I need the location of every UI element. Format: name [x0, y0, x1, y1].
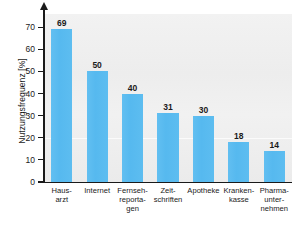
y-axis-tick-label: 70: [0, 22, 35, 32]
y-axis-tick-mark: [38, 115, 43, 116]
bar-item[interactable]: 69: [51, 17, 72, 182]
bar-rect[interactable]: [193, 116, 214, 182]
y-axis-tick-label: 20: [0, 133, 35, 143]
y-axis-tick-label: 40: [0, 89, 35, 99]
y-axis-tick-mark: [38, 27, 43, 28]
bar-value-label: 18: [234, 132, 243, 141]
x-axis-category-label: Pharma- unter- nehmen: [257, 186, 292, 214]
bar-value-label: 30: [199, 106, 208, 115]
y-axis-line: [43, 8, 45, 183]
x-axis-category-label: Zeit- schriften: [150, 186, 185, 204]
y-axis-tick-mark: [38, 93, 43, 94]
y-axis-tick-label: 0: [0, 177, 35, 187]
y-axis-tick-label: 10: [0, 155, 35, 165]
x-axis-category-label: Kranken- kasse: [221, 186, 256, 204]
y-axis-tick-label: 30: [0, 111, 35, 121]
y-axis-tick-mark: [38, 71, 43, 72]
y-axis-tick-label: 60: [0, 44, 35, 54]
bar-rect[interactable]: [51, 29, 72, 182]
x-axis-category-label: Internet: [79, 186, 114, 195]
bar-item[interactable]: 31: [157, 101, 178, 182]
y-axis-tick-mark: [38, 137, 43, 138]
bar-item[interactable]: 40: [122, 82, 143, 182]
x-axis-category-label: Apotheke: [186, 186, 221, 195]
bar-rect[interactable]: [122, 94, 143, 182]
bar-item[interactable]: 18: [228, 130, 249, 182]
bar-value-label: 14: [270, 141, 279, 150]
bar-rect[interactable]: [87, 71, 108, 182]
x-axis-category-label: Haus- arzt: [44, 186, 79, 204]
x-axis-category-label: Fernseh- reporta- gen: [115, 186, 150, 214]
bar-value-label: 40: [128, 84, 137, 93]
y-axis-tick-mark: [38, 49, 43, 50]
bar-rect[interactable]: [264, 151, 285, 182]
bar-value-label: 50: [92, 61, 101, 70]
x-axis-line: [43, 182, 292, 183]
y-axis-tick-label: 50: [0, 66, 35, 76]
bar-rect[interactable]: [157, 113, 178, 182]
y-axis-arrow-icon: [40, 2, 48, 10]
y-axis-tick-mark: [38, 181, 43, 182]
bar-rect[interactable]: [228, 142, 249, 182]
bar-chart-figure: Nutzungsfrequenz [%] 010203040506070 695…: [0, 0, 300, 228]
bar-value-label: 69: [57, 19, 66, 28]
bar-item[interactable]: 50: [87, 59, 108, 182]
y-axis-tick-mark: [38, 159, 43, 160]
bar-item[interactable]: 30: [193, 104, 214, 182]
bar-value-label: 31: [163, 103, 172, 112]
bar-item[interactable]: 14: [264, 139, 285, 182]
